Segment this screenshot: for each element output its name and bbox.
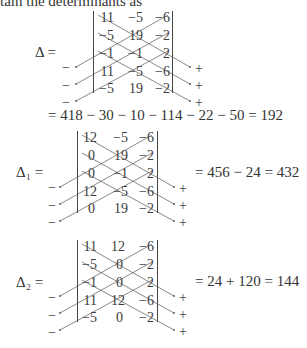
diagonal-lines (0, 0, 307, 348)
delta2-result: = 24 + 120 = 144 (195, 273, 299, 290)
